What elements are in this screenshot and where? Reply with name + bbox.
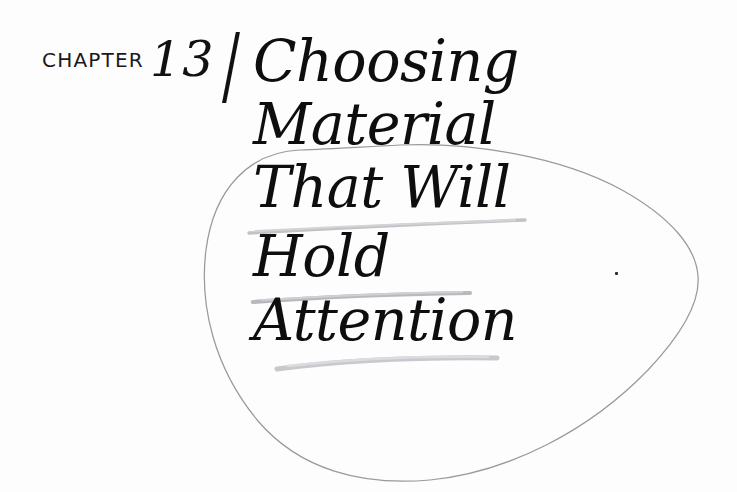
title-line-2: Material <box>253 96 496 153</box>
scan-speck <box>615 272 618 275</box>
chapter-opener-page: CHAPTER 13 / Choosing Material That Will… <box>0 0 737 492</box>
title-line-5: Attention <box>253 292 517 349</box>
title-line-1: Choosing <box>253 33 519 90</box>
chapter-number: 13 <box>150 31 214 88</box>
chapter-heading: CHAPTER 13 / Choosing Material That Will… <box>0 0 737 492</box>
title-line-3: That Will <box>253 159 511 216</box>
chapter-separator-slash: / <box>222 22 240 108</box>
chapter-label: CHAPTER <box>42 48 144 72</box>
title-line-4: Hold <box>253 228 390 285</box>
